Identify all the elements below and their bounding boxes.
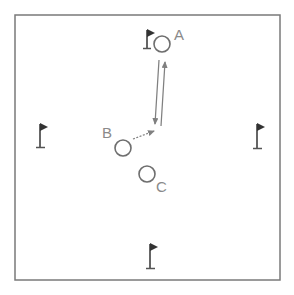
- return-run-arrow: [161, 62, 165, 126]
- player-c-label: C: [156, 178, 167, 195]
- flag-icon-bottom: [146, 243, 158, 269]
- player-a-label: A: [174, 26, 184, 43]
- player-b-label: B: [102, 124, 112, 141]
- field-border: [15, 15, 280, 280]
- player-c-icon: [139, 166, 155, 182]
- drill-diagram: A B C: [0, 0, 294, 295]
- flag-icon-left: [36, 123, 48, 148]
- dribble-arrow: [133, 131, 154, 139]
- pass-arrow: [155, 60, 159, 124]
- flag-icon-right: [253, 123, 265, 149]
- player-b-icon: [115, 140, 131, 156]
- player-a-icon: [154, 36, 170, 52]
- flag-icon-top: [143, 29, 155, 49]
